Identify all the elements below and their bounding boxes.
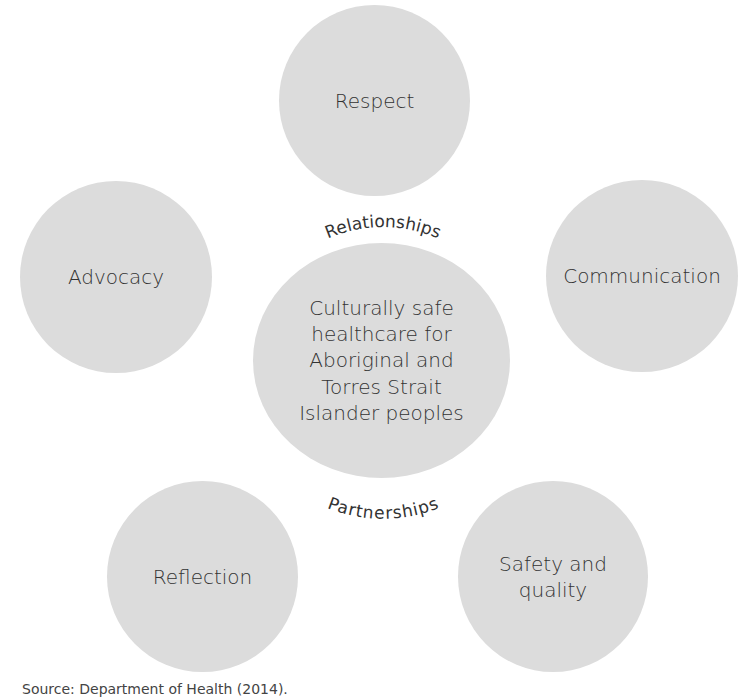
- source-caption: Source: Department of Health (2014).: [22, 681, 288, 697]
- node-respect: Respect: [279, 5, 470, 196]
- node-advocacy-label: Advocacy: [68, 264, 164, 290]
- center-label-line-4: Torres Strait: [321, 375, 442, 399]
- center-label: Culturally safe healthcare for Aborigina…: [299, 295, 464, 427]
- node-reflection: Reflection: [107, 481, 298, 672]
- safety-quality-line-1: Safety and: [499, 552, 607, 576]
- node-safety-quality: Safety and quality: [458, 481, 648, 672]
- center-label-line-5: Islander peoples: [299, 401, 464, 425]
- node-reflection-label: Reflection: [153, 564, 253, 590]
- safety-quality-line-2: quality: [519, 578, 587, 602]
- node-advocacy: Advocacy: [20, 181, 212, 373]
- arc-label-relationships: Relationships: [322, 211, 444, 242]
- node-safety-quality-label: Safety and quality: [499, 551, 607, 603]
- node-communication-label: Communication: [563, 263, 721, 289]
- node-respect-label: Respect: [335, 88, 415, 114]
- node-communication: Communication: [546, 180, 738, 372]
- arc-label-partnerships: Partnerships: [325, 493, 440, 523]
- node-center: Culturally safe healthcare for Aborigina…: [253, 243, 510, 478]
- center-label-line-3: Aboriginal and: [309, 348, 453, 372]
- show-through-text: [480, 2, 491, 37]
- center-label-line-1: Culturally safe: [309, 296, 454, 320]
- center-label-line-2: healthcare for: [311, 322, 452, 346]
